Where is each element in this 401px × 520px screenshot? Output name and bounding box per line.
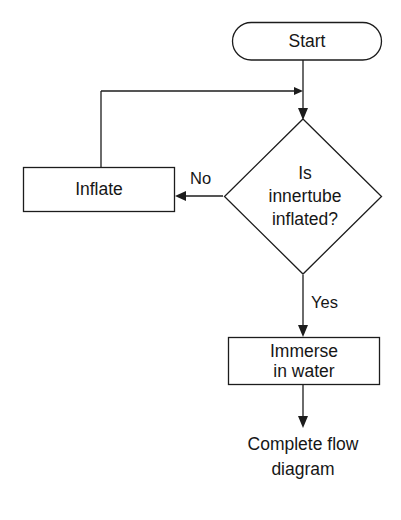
edge-label-yes: Yes [311, 293, 338, 311]
edge-label-no: No [190, 169, 211, 187]
decision-label-line3: inflated? [272, 209, 338, 229]
decision-label-line2: innertube [269, 186, 342, 206]
flowchart-page: Start Is innertube inflated? Inflate Imm… [0, 0, 401, 520]
footer-ghost-text [18, 504, 318, 514]
immerse-label-line1: Immerse [270, 341, 338, 361]
arrowhead-into-inflate [175, 191, 186, 201]
arrowhead-into-complete [298, 416, 308, 428]
node-start[interactable]: Start [233, 23, 382, 61]
node-inflate[interactable]: Inflate [24, 168, 175, 212]
arrowhead-loop-merge [294, 87, 303, 95]
node-complete: Complete flow diagram [248, 434, 359, 479]
complete-label-line1: Complete flow [248, 434, 359, 454]
arrowhead-into-immerse [298, 325, 308, 337]
start-label: Start [289, 31, 326, 51]
complete-label-line2: diagram [271, 459, 334, 479]
decision-label-line1: Is [298, 163, 312, 183]
immerse-label-line2: in water [273, 361, 334, 381]
flowchart-canvas: Start Is innertube inflated? Inflate Imm… [0, 0, 401, 520]
node-immerse[interactable]: Immerse in water [229, 338, 380, 385]
node-decision[interactable]: Is innertube inflated? [225, 119, 382, 274]
inflate-label: Inflate [75, 179, 123, 199]
